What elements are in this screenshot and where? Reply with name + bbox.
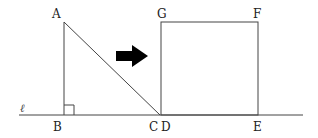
square-defg <box>161 22 258 115</box>
geometry-diagram: A B C D E F G ℓ <box>0 0 318 138</box>
label-a: A <box>51 7 61 21</box>
right-angle-mark <box>64 105 74 115</box>
label-c: C <box>149 120 158 134</box>
label-f: F <box>253 7 261 21</box>
label-b: B <box>53 120 62 134</box>
label-e: E <box>253 120 262 134</box>
label-line-l: ℓ <box>20 102 25 115</box>
segment-ac <box>64 22 160 115</box>
label-g: G <box>157 7 167 21</box>
label-d: D <box>161 120 171 134</box>
right-arrow-icon <box>116 45 148 67</box>
